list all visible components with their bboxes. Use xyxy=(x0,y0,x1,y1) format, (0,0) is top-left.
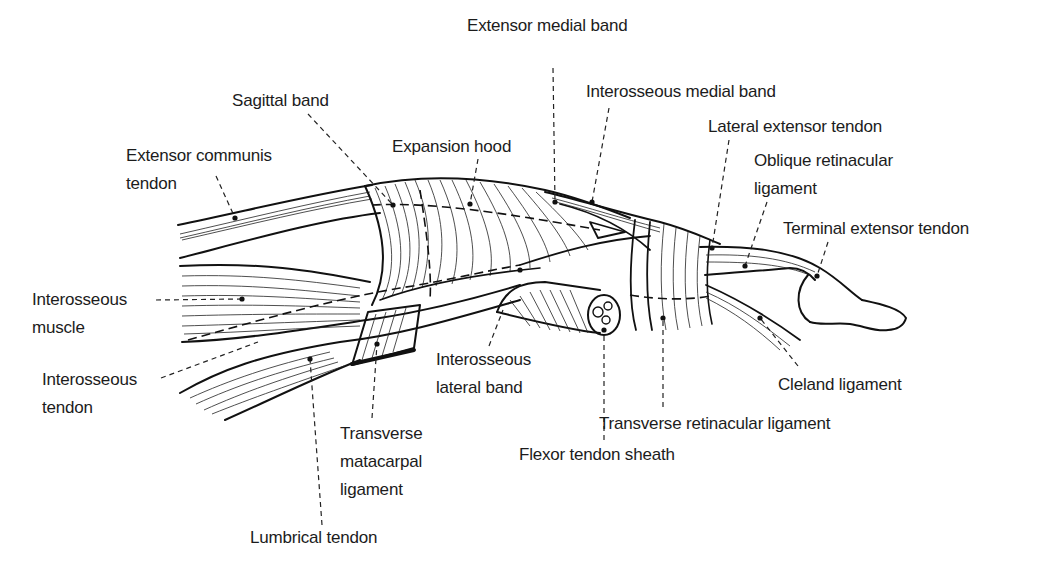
label-cleland-ligament: Cleland ligament xyxy=(778,371,901,399)
label-text: Interosseous xyxy=(42,366,137,394)
anchor-dot xyxy=(757,315,762,320)
anchor-dot xyxy=(589,199,594,204)
leader-interosseous-muscle xyxy=(156,299,242,300)
anchor-dot xyxy=(742,263,747,268)
anchor-dot xyxy=(467,201,472,206)
anchor-dot xyxy=(601,327,606,332)
label-interosseous-muscle: Interosseous muscle xyxy=(32,286,127,342)
label-interosseous-tendon: Interosseous tendon xyxy=(42,366,137,422)
label-transverse-retinacular-ligament: Transverse retinacular ligament xyxy=(599,410,830,438)
label-flexor-tendon-sheath: Flexor tendon sheath xyxy=(519,441,675,469)
label-lumbrical-tendon: Lumbrical tendon xyxy=(250,524,377,552)
label-text: Cleland ligament xyxy=(778,371,901,399)
label-text: Expansion hood xyxy=(392,133,511,161)
label-transverse-metacarpal-ligament: Transverse matacarpal ligament xyxy=(340,420,422,504)
label-terminal-extensor-tendon: Terminal extensor tendon xyxy=(783,215,969,243)
label-text: Interosseous medial band xyxy=(586,78,776,106)
label-text: Transverse xyxy=(340,420,422,448)
label-text: Transverse retinacular ligament xyxy=(599,410,830,438)
label-text: tendon xyxy=(42,394,137,422)
label-text: Flexor tendon sheath xyxy=(519,441,675,469)
leader-interosseous-tendon xyxy=(161,342,258,378)
label-text: Sagittal band xyxy=(232,87,329,115)
label-extensor-medial-band: Extensor medial band xyxy=(467,12,627,40)
label-sagittal-band: Sagittal band xyxy=(232,87,329,115)
leader-extensor-medial-band xyxy=(553,68,555,202)
label-text: Extensor communis xyxy=(126,142,272,170)
label-text: Extensor medial band xyxy=(467,12,627,40)
anchor-dot xyxy=(814,273,819,278)
anchor-dot xyxy=(307,356,312,361)
anchor-dot xyxy=(374,341,379,346)
label-interosseous-lateral-band: Interosseous lateral band xyxy=(436,346,531,402)
label-text: lateral band xyxy=(436,374,531,402)
anchor-dot xyxy=(552,199,557,204)
anchor-dot xyxy=(232,215,237,220)
label-expansion-hood: Expansion hood xyxy=(392,133,511,161)
label-oblique-retinacular-ligament: Oblique retinacular ligament xyxy=(754,147,893,203)
label-text: ligament xyxy=(754,175,893,203)
anchor-dot xyxy=(239,296,244,301)
label-text: Oblique retinacular xyxy=(754,147,893,175)
anchor-dot xyxy=(517,267,522,272)
interosseous-muscle-shape xyxy=(180,265,520,342)
anchor-dot xyxy=(709,245,714,250)
label-text: Lumbrical tendon xyxy=(250,524,377,552)
label-text: Interosseous xyxy=(436,346,531,374)
label-text: muscle xyxy=(32,314,127,342)
label-text: matacarpal xyxy=(340,448,422,476)
label-lateral-extensor-tendon: Lateral extensor tendon xyxy=(708,113,882,141)
leader-interosseous-medial-band xyxy=(592,108,609,202)
label-text: ligament xyxy=(340,476,422,504)
medial-bands-shape xyxy=(520,192,720,265)
label-text: Terminal extensor tendon xyxy=(783,215,969,243)
distal-finger-shape xyxy=(700,247,906,350)
label-interosseous-medial-band: Interosseous medial band xyxy=(586,78,776,106)
label-text: Lateral extensor tendon xyxy=(708,113,882,141)
finger-extensor-anatomy-diagram xyxy=(0,0,1049,574)
leader-lumbrical-tendon xyxy=(310,359,322,525)
anchor-dot xyxy=(390,202,395,207)
leader-expansion-hood xyxy=(470,159,478,204)
anchor-dot xyxy=(660,315,665,320)
leader-sagittal-band xyxy=(308,114,393,205)
leader-lateral-extensor-tendon xyxy=(712,140,729,248)
leader-interosseous-lateral-band xyxy=(489,310,503,346)
expansion-hood-shape xyxy=(365,178,630,305)
flexor-sheath-shape xyxy=(497,282,620,335)
label-text: Interosseous xyxy=(32,286,127,314)
label-text: tendon xyxy=(126,170,272,198)
label-extensor-communis-tendon: Extensor communis tendon xyxy=(126,142,272,198)
